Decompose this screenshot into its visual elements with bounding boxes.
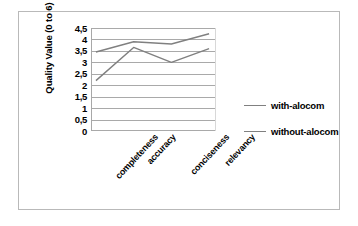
y-tick-label: 1 bbox=[49, 104, 87, 113]
y-tick-label: 1,5 bbox=[49, 92, 87, 101]
legend-item: with-alocom bbox=[244, 96, 344, 114]
y-tick-label: 2,5 bbox=[49, 69, 87, 78]
y-tick-label: 3,5 bbox=[49, 46, 87, 55]
y-tick-label: 4 bbox=[49, 35, 87, 44]
series-line bbox=[96, 47, 209, 80]
legend-item: without-alocom bbox=[244, 122, 344, 140]
y-tick-label: 4,5 bbox=[49, 24, 87, 33]
y-tick-label: 0,5 bbox=[49, 115, 87, 124]
plot-area bbox=[91, 28, 216, 131]
series-line bbox=[96, 34, 209, 52]
chart-figure-card: Quality Value (0 to 6) 4,543,532,521,510… bbox=[18, 11, 340, 210]
x-axis-category-labels: completenessaccuracyconcisenessrelevancy bbox=[59, 132, 249, 202]
legend-line-swatch bbox=[244, 105, 266, 106]
series-lines bbox=[92, 28, 215, 131]
legend-label: with-alocom bbox=[271, 100, 324, 111]
legend-line-swatch bbox=[244, 131, 266, 132]
y-axis-tick-labels: 4,543,532,521,510,50 bbox=[49, 20, 87, 128]
legend-label: without-alocom bbox=[271, 126, 338, 137]
y-tick-label: 2 bbox=[49, 81, 87, 90]
y-tick-label: 3 bbox=[49, 58, 87, 67]
chart-legend: with-alocomwithout-alocom bbox=[244, 96, 344, 148]
x-axis-category-label: conciseness bbox=[188, 132, 231, 177]
